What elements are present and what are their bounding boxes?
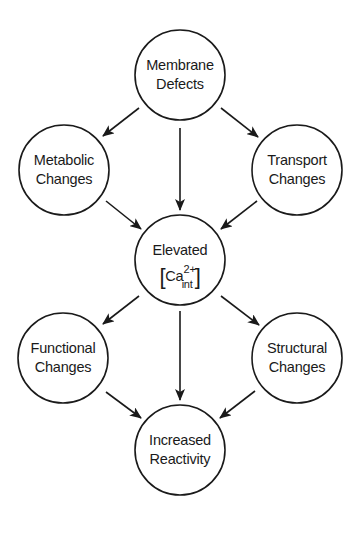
arrow-membrane-to-transport bbox=[221, 108, 258, 137]
label-line-1: Elevated bbox=[130, 241, 230, 260]
label-line-1: Metabolic bbox=[14, 151, 114, 170]
label-line-1: Structural bbox=[247, 339, 347, 358]
label-line-1: Increased bbox=[130, 431, 230, 450]
int-subscript: int bbox=[182, 278, 193, 290]
label-increased-reactivity: Increased Reactivity bbox=[130, 431, 230, 469]
label-transport-changes: Transport Changes bbox=[247, 151, 347, 189]
calcium-expression: [Ca2+int] bbox=[130, 260, 230, 287]
arrow-metabolic-to-elevated bbox=[106, 201, 141, 229]
calcium-symbol: Ca bbox=[165, 268, 183, 284]
right-bracket: ] bbox=[195, 264, 201, 289]
label-line-1: Membrane bbox=[130, 56, 230, 75]
label-line-2: Changes bbox=[14, 170, 114, 189]
label-metabolic-changes: Metabolic Changes bbox=[14, 151, 114, 189]
label-structural-changes: Structural Changes bbox=[247, 339, 347, 377]
label-line-2: Changes bbox=[247, 170, 347, 189]
arrow-functional-to-reactivity bbox=[106, 392, 141, 418]
label-line-1: Transport bbox=[247, 151, 347, 170]
label-line-2: Defects bbox=[130, 75, 230, 94]
arrow-elevated-to-structural bbox=[221, 296, 259, 325]
arrow-membrane-to-metabolic bbox=[103, 108, 139, 136]
label-line-2: Reactivity bbox=[130, 450, 230, 469]
label-line-1: Functional bbox=[13, 339, 113, 358]
charge-superscript: 2+ bbox=[183, 263, 195, 275]
label-elevated-calcium: Elevated [Ca2+int] bbox=[130, 241, 230, 287]
label-membrane-defects: Membrane Defects bbox=[130, 56, 230, 94]
label-functional-changes: Functional Changes bbox=[13, 339, 113, 377]
arrow-transport-to-elevated bbox=[221, 201, 257, 229]
arrow-elevated-to-functional bbox=[103, 296, 139, 324]
label-line-2: Changes bbox=[247, 358, 347, 377]
label-line-2: Changes bbox=[13, 358, 113, 377]
arrow-structural-to-reactivity bbox=[220, 391, 255, 418]
